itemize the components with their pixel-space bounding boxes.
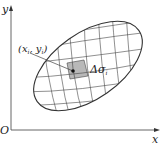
y-axis-arrow-icon	[9, 5, 13, 11]
region-D	[18, 3, 157, 128]
origin-label: O	[0, 124, 9, 137]
point-label: (xi, yi)	[18, 43, 47, 55]
x-axis-label: x	[152, 133, 159, 146]
y-axis-label: y	[1, 3, 9, 16]
sub-region-label: Δσi	[89, 63, 107, 76]
sample-point	[71, 69, 75, 73]
x-axis-arrow-icon	[154, 128, 160, 132]
double-integral-diagram: y x O (xi, yi) Δσi	[0, 0, 168, 154]
